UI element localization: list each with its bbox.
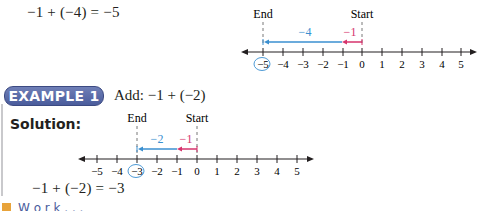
svg-text:3: 3 xyxy=(419,58,425,70)
svg-text:−4: −4 xyxy=(111,165,123,177)
svg-text:0: 0 xyxy=(359,58,365,70)
svg-text:1: 1 xyxy=(214,165,220,177)
step1-label: −1 xyxy=(344,25,357,39)
number-line-top: End Start −1 −4 −5 −4 −3 −2 −1 0 1 2 3 4… xyxy=(0,0,480,80)
svg-text:1: 1 xyxy=(379,58,385,70)
step1-label: −1 xyxy=(180,132,193,146)
svg-text:0: 0 xyxy=(194,165,200,177)
number-line-example: End Start −1 −2 −5 −4 −3 −2 −1 0 1 2 3 4… xyxy=(0,110,330,180)
svg-text:−3: −3 xyxy=(297,58,309,70)
example-badge: EXAMPLE 1 xyxy=(4,86,104,106)
svg-text:5: 5 xyxy=(294,165,300,177)
start-label: Start xyxy=(351,7,374,21)
svg-text:−5: −5 xyxy=(91,165,103,177)
svg-text:−1: −1 xyxy=(337,58,349,70)
end-label: End xyxy=(253,7,272,21)
svg-text:4: 4 xyxy=(439,58,445,70)
svg-text:3: 3 xyxy=(254,165,260,177)
end-label: End xyxy=(127,111,146,125)
start-label: Start xyxy=(186,111,209,125)
example-equation: −1 + (−2) = −3 xyxy=(32,180,125,197)
example-prompt: Add: −1 + (−2) xyxy=(114,87,206,104)
svg-text:2: 2 xyxy=(234,165,240,177)
step2-label: −2 xyxy=(151,132,164,146)
svg-text:−1: −1 xyxy=(171,165,183,177)
orange-square-icon xyxy=(2,203,11,211)
svg-text:−2: −2 xyxy=(151,165,163,177)
svg-text:−4: −4 xyxy=(277,58,289,70)
next-heading-cutoff: W o r k . . . xyxy=(18,201,83,211)
svg-text:5: 5 xyxy=(458,58,464,70)
svg-text:2: 2 xyxy=(399,58,405,70)
svg-text:4: 4 xyxy=(274,165,280,177)
svg-text:−2: −2 xyxy=(317,58,329,70)
step2-label: −4 xyxy=(299,25,312,39)
